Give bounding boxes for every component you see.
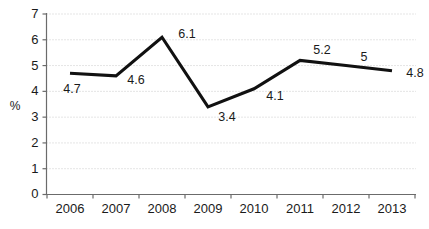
y-tick-label-5: 5 [31,58,38,73]
data-label-2013: 4.8 [406,66,423,80]
data-label-2006: 4.7 [63,82,80,96]
data-label-2007: 4.6 [127,73,144,87]
y-tick-label-6: 6 [31,32,38,47]
chart-canvas: 01234567 % 20062007200820092010201120122… [0,0,429,229]
x-tick-label-2008: 2008 [148,201,177,216]
x-tick-label-2009: 2009 [194,201,223,216]
x-tick-label-2010: 2010 [240,201,269,216]
x-tick-label-2006: 2006 [56,201,85,216]
data-label-2012: 5 [361,50,368,64]
y-tick-label-4: 4 [31,83,38,98]
y-axis-title: % [10,99,21,113]
x-tick-label-2012: 2012 [332,201,361,216]
y-tick-label-7: 7 [31,6,38,21]
y-tick-label-3: 3 [31,109,38,124]
y-tick-label-0: 0 [31,186,38,201]
line-chart: 01234567 % 20062007200820092010201120122… [0,0,429,229]
data-label-2008: 6.1 [178,27,195,41]
y-tick-label-2: 2 [31,135,38,150]
y-tick-label-1: 1 [31,161,38,176]
x-tick-label-2011: 2011 [286,201,314,216]
data-label-2009: 3.4 [218,110,235,124]
data-label-2010: 4.1 [266,89,283,103]
x-tick-label-2007: 2007 [102,201,131,216]
data-label-2011: 5.2 [313,43,330,57]
x-tick-label-2013: 2013 [378,201,407,216]
